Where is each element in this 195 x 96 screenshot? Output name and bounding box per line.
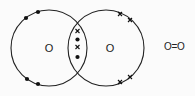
electron-dot [24,16,28,20]
right-top-cross-pair [118,12,132,22]
left-atom-symbol: O [45,42,54,54]
left-top-dot-pair [24,10,40,20]
shared-cross-2 [76,45,80,49]
shared-electrons [75,29,79,59]
shared-dot-2 [75,55,79,59]
electron-cross [128,75,132,79]
right-bottom-cross-pair [118,75,132,84]
right-atom-symbol: O [106,42,115,54]
shared-cross-1 [76,29,80,33]
electron-dot [36,82,40,86]
electron-dot [36,10,40,14]
left-bottom-dot-pair [25,77,40,86]
electron-dot [25,77,29,81]
shared-dot-1 [75,37,79,41]
structural-formula: O=O [164,41,185,52]
